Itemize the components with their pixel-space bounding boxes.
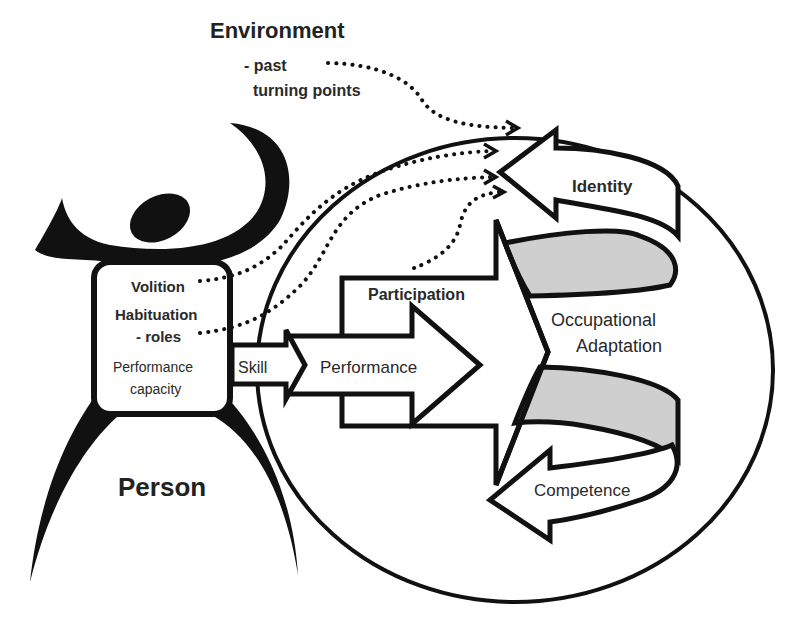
performance-capacity-label-2: capacity: [130, 381, 181, 397]
participation-label: Participation: [368, 286, 465, 303]
competence-label: Competence: [534, 481, 630, 500]
adaptation-label-2: Adaptation: [576, 336, 662, 356]
identity-ribbon-shading: [505, 231, 676, 296]
environment-title: Environment: [210, 18, 345, 43]
occupational-label: Occupational: [551, 310, 656, 330]
identity-label: Identity: [572, 177, 633, 196]
participation-influence-arrow: [414, 192, 500, 268]
volition-label: Volition: [131, 278, 185, 295]
moho-diagram: Environment - past turning points Voliti…: [0, 0, 792, 636]
environment-turning-points-label: turning points: [253, 82, 361, 99]
performance-label: Performance: [320, 358, 417, 377]
volition-influence-arrow: [200, 151, 492, 281]
competence-ribbon-shading: [515, 367, 678, 460]
skill-label: Skill: [238, 359, 267, 376]
person-right-leg-shape: [210, 392, 298, 575]
person-left-leg-shape: [30, 392, 118, 582]
person-head-shape: [121, 184, 198, 253]
performance-capacity-label-1: Performance: [113, 359, 193, 375]
environment-past-label: - past: [244, 57, 287, 74]
habituation-label: Habituation: [115, 306, 198, 323]
person-label: Person: [118, 472, 206, 502]
roles-label: - roles: [136, 328, 181, 345]
